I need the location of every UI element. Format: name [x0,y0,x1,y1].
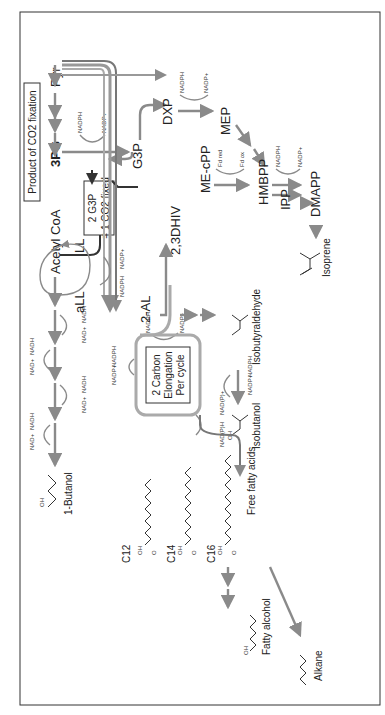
cofactor-fd-ox: Fd ox [239,152,245,167]
c12-oh: OH [137,546,143,555]
cofactor-nadph-2al: NADPH [145,312,151,333]
product-free-fatty-acids: Free fatty acids [246,447,257,515]
cofactor-nad-2: NAD+ [29,358,35,375]
c14-o: O [191,550,197,555]
cofactor-nadph-3pg: NADPH [77,112,83,133]
cofactor-nadp-ib: NADP+ [247,374,253,395]
cofactor-nadph-hmbpp: NADPH [275,146,281,167]
cofactor-fd-red: Fd red [217,150,223,167]
elongation-box-line3: Per cycle [175,354,186,396]
c12-o: O [151,550,157,555]
elongation-box-line1: 2 Carbon [151,354,162,395]
c16-oh: OH [217,546,223,555]
product-alkane: Alkane [313,650,324,681]
elongation-box-line2: Elongation [163,351,174,398]
cofactor-nadph-dxp: NADPH [179,72,185,93]
label-c12: C12 [121,544,132,563]
cofactor-nadp-dxp: NADP+ [203,72,209,93]
pathway-diagram: Product of CO2 fixation 2 G3P = 1 CO2 fi… [0,0,385,715]
butanol-oh: OH [39,498,45,507]
c14-oh: OH [177,546,183,555]
cofactor-nadp-plus-fa: NAD(P)+ [219,390,225,415]
metabolite-dhiv: 2,3DHIV [168,206,183,255]
cofactor-nadh-4: NADH [29,413,35,430]
pathway-canvas: Product of CO2 fixation 2 G3P = 1 CO2 fi… [0,0,385,715]
fatty-alcohol-oh: OH [243,646,249,655]
product-isoprene: Isoprene [321,238,332,277]
metabolite-me-cpp: ME-cPP [198,145,213,193]
cofactor-nadp-fa: NADP+ [111,364,117,385]
cofactor-nadph-ll: NADPH [119,276,125,297]
cofactor-nadh-3: NADH [81,376,87,393]
cofactor-nadp-hmbpp: NADP+ [297,146,303,167]
metabolite-dxp: DXP [160,98,175,125]
metabolite-dmapp: DMAPP [308,171,323,217]
fixation-box-line1: 2 G3P [87,194,98,223]
label-c14: C14 [166,544,177,563]
cofactor-nadh-2: NADH [29,338,35,355]
metabolite-mep: MEP [218,107,233,135]
cofactor-nad-1: NAD+ [81,326,87,343]
product-fatty-alcohol: Fatty alcohol [261,598,272,655]
metabolite-hmbpp: HMBPP [256,159,271,205]
cofactor-nad-4: NAD+ [29,433,35,450]
cofactor-nadh-1: NADH [81,306,87,323]
product-isobutanol: Isobutanol [251,403,262,449]
label-c16: C16 [206,544,217,563]
c16-o: O [231,550,237,555]
cofactor-nadp-ll: NADP+ [119,248,125,269]
title-box-label: Product of CO2 fixation [27,90,38,193]
cofactor-nad-3: NAD+ [81,396,87,413]
metabolite-acetyl-coa: Acetyl CoA [48,209,63,274]
metabolite-ipp: IPP [278,189,293,210]
product-1-butanol: 1-Butanol [63,472,74,515]
product-isobutyraldehyde: Isobutyraldehyde [251,288,262,365]
